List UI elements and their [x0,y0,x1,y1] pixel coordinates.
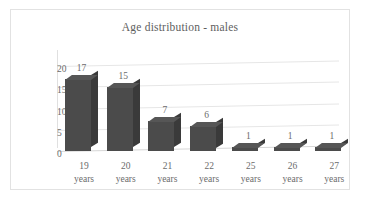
bar[interactable] [148,121,174,151]
bar-column[interactable]: 1 [274,147,312,151]
bar-front-face [148,121,174,151]
bar-value-label: 1 [232,131,265,141]
bar-value-label: 1 [274,131,307,141]
x-axis-label-line: years [273,173,313,186]
bar-top-face [315,143,348,148]
x-axis-label-line: years [106,173,146,186]
chart-title: Age distribution - males [11,21,349,33]
x-axis-label-line: 27 [314,160,354,173]
bar[interactable] [65,79,91,151]
chart-container: Age distribution - males 05101520 171576… [10,9,350,190]
bar-side-face [133,79,140,147]
bar-column[interactable]: 17 [65,79,103,151]
bar-top-face [274,143,307,148]
x-axis-category-label: 27years [314,160,354,185]
bar[interactable] [274,147,300,151]
bar-column[interactable]: 7 [148,121,186,151]
x-axis-label-line: 25 [231,160,271,173]
bar-value-label: 17 [65,63,98,73]
bar-column[interactable]: 1 [232,147,270,151]
x-axis-category-label: 26years [273,160,313,185]
x-axis-category-label: 20years [106,160,146,185]
x-axis-label-line: 21 [147,160,187,173]
bar-front-face [65,79,91,151]
bar[interactable] [190,126,216,152]
bar-column[interactable]: 1 [315,147,353,151]
x-axis-label-line: 22 [189,160,229,173]
x-axis-label-line: years [147,173,187,186]
plot-area: 05101520 171576111 [47,56,339,157]
bar-value-label: 1 [315,131,348,141]
bar-series: 171576111 [47,56,339,157]
bar-value-label: 15 [107,71,140,81]
bar-column[interactable]: 6 [190,126,228,152]
bar[interactable] [232,147,258,151]
x-axis-label-line: years [189,173,229,186]
bar-column[interactable]: 15 [107,87,145,151]
x-axis-label-line: 26 [273,160,313,173]
bar-value-label: 6 [190,110,223,120]
bar-front-face [107,87,133,151]
bar[interactable] [107,87,133,151]
x-axis-category-labels: 19years20years21years22years25years26yea… [47,160,339,194]
x-axis-label-line: 19 [64,160,104,173]
x-axis-category-label: 21years [147,160,187,185]
x-axis-label-line: years [64,173,104,186]
bar-front-face [190,126,216,152]
bar-top-face [232,143,265,148]
bar-side-face [91,71,98,147]
bar[interactable] [315,147,341,151]
bar-value-label: 7 [148,105,181,115]
x-axis-category-label: 25years [231,160,271,185]
x-axis-label-line: years [314,173,354,186]
x-axis-category-label: 19years [64,160,104,185]
x-axis-label-line: years [231,173,271,186]
x-axis-label-line: 20 [106,160,146,173]
x-axis-category-label: 22years [189,160,229,185]
